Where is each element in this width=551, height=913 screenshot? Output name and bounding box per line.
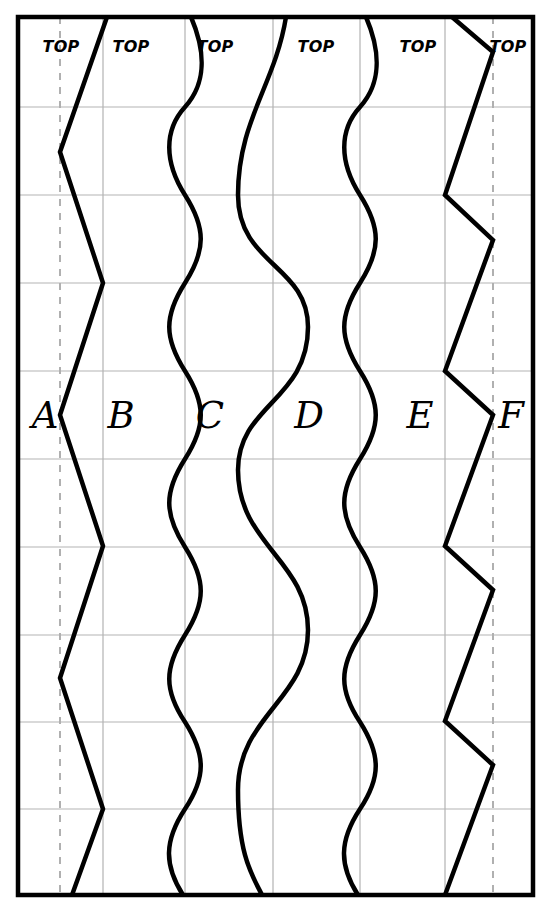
seam-pattern-figure: TOP TOP TOP TOP TOP TOP A B C D E F — [0, 0, 551, 913]
top-label-b: TOP — [112, 37, 149, 56]
top-label-e: TOP — [399, 37, 436, 56]
panel-letter-e: E — [405, 394, 433, 437]
panel-letter-f: F — [497, 394, 525, 437]
top-label-f: TOP — [489, 37, 526, 56]
seam-diagram-svg: TOP TOP TOP TOP TOP TOP A B C D E F — [0, 0, 551, 913]
panel-letter-b: B — [106, 394, 134, 437]
panel-letter-c: C — [196, 394, 224, 437]
top-label-d: TOP — [297, 37, 334, 56]
panel-letter-d: D — [293, 394, 324, 437]
panel-letter-a: A — [29, 394, 59, 437]
top-label-c: TOP — [196, 37, 233, 56]
top-label-a: TOP — [42, 37, 79, 56]
figure-background — [0, 0, 551, 913]
